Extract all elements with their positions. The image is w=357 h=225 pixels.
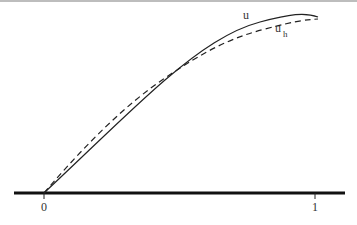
tick-label-0: 0 [41, 200, 47, 214]
tick-label-1: 1 [312, 200, 318, 214]
label-u: u [243, 8, 249, 22]
label-u-h-subscript: h [283, 29, 288, 39]
figure-canvas: u u h 0 1 [0, 0, 357, 225]
figure: u u h 0 1 [0, 0, 357, 225]
label-u-h: u [275, 21, 281, 35]
curve-u [44, 14, 318, 193]
curve-u-h [44, 19, 318, 193]
